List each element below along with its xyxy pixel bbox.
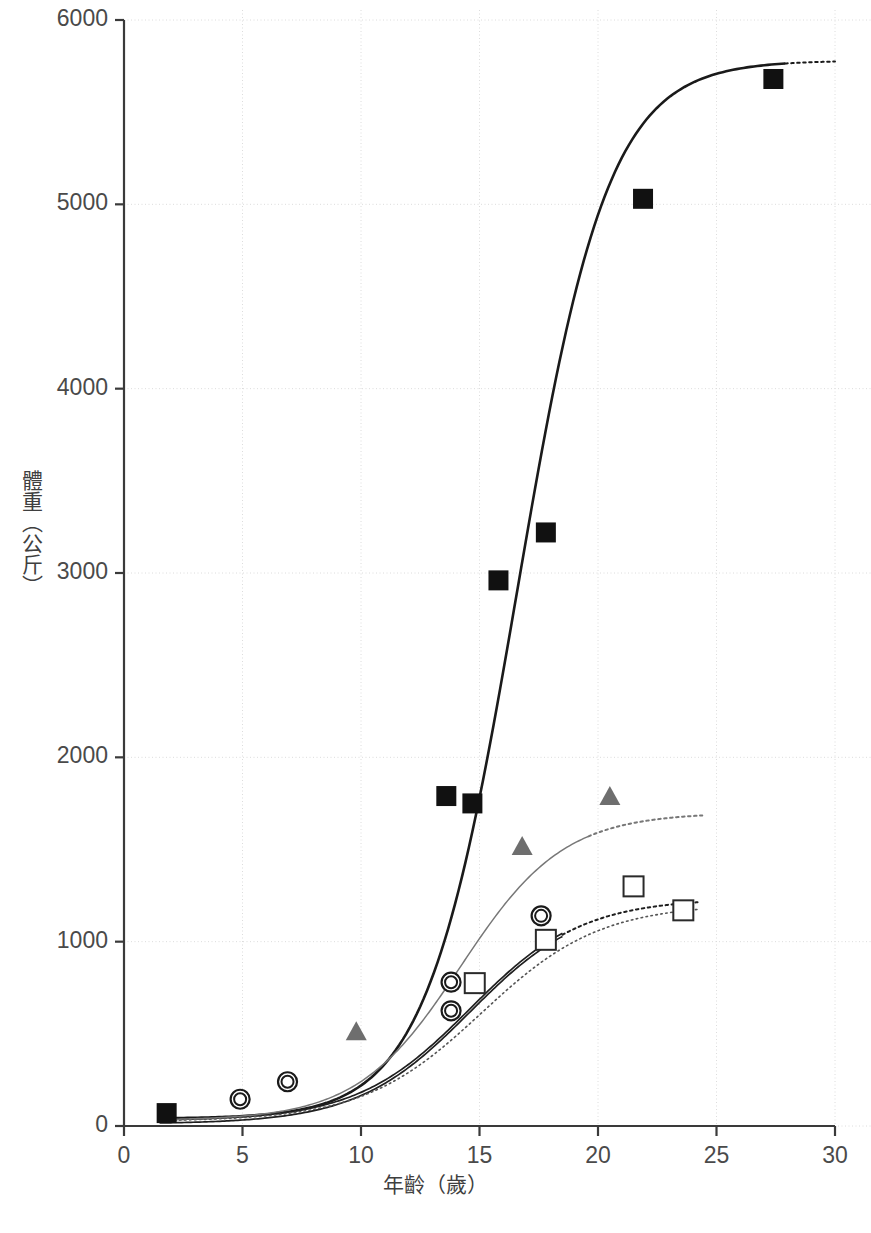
fitted-curves: [160, 62, 835, 1123]
y-tick-label: 5000: [57, 189, 108, 216]
x-tick-label: 20: [568, 1142, 628, 1169]
y-tick-label: 4000: [57, 374, 108, 401]
chart-plot-area: [0, 0, 871, 1233]
y-tick-label: 0: [95, 1111, 108, 1138]
x-tick-label: 15: [450, 1142, 510, 1169]
x-tick-label: 10: [331, 1142, 391, 1169]
data-markers: [157, 69, 784, 1123]
x-tick-label: 0: [94, 1142, 154, 1169]
y-tick-label: 3000: [57, 558, 108, 585]
x-tick-label: 25: [687, 1142, 747, 1169]
axis-lines: [115, 20, 835, 1136]
chart-container: 0100020003000400050006000 051015202530 體…: [0, 0, 871, 1233]
y-tick-label: 1000: [57, 927, 108, 954]
x-tick-label: 30: [805, 1142, 865, 1169]
x-tick-label: 5: [213, 1142, 273, 1169]
y-axis-title: 體重（公斤）: [4, 470, 44, 596]
gridlines: [124, 10, 871, 1126]
x-axis-title: 年齡（歲）: [0, 1168, 871, 1198]
y-tick-label: 6000: [57, 5, 108, 32]
y-tick-label: 2000: [57, 742, 108, 769]
